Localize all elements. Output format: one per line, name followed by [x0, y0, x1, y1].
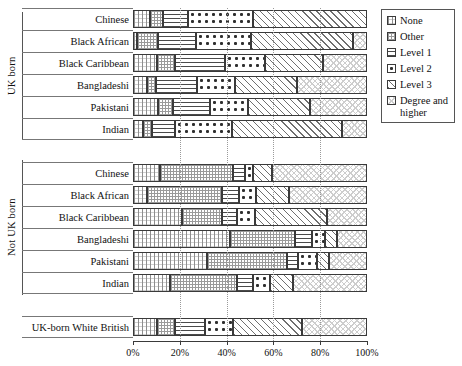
legend-swatch-icon [387, 64, 396, 73]
category-label: Pakistani [22, 97, 133, 117]
x-tick-label-60: 60% [264, 347, 282, 358]
category-label: Pakistani [22, 251, 133, 271]
gridline-40 [227, 8, 228, 341]
legend-item-other[interactable]: Other [387, 31, 449, 43]
category-separator [22, 293, 133, 294]
plot-area [133, 8, 367, 341]
category-label: Black African [22, 185, 133, 205]
legend-swatch-icon [387, 80, 396, 89]
x-tick-label-80: 80% [311, 347, 329, 358]
x-axis-line [133, 341, 367, 342]
legend: NoneOtherLevel 1Level 2Level 3Degree and… [381, 9, 455, 123]
x-tick-40 [227, 341, 228, 345]
legend-swatch-icon [387, 16, 396, 25]
legend-label: Level 2 [400, 63, 432, 75]
gridline-20 [180, 8, 181, 341]
x-tick-0 [133, 341, 134, 345]
gridline-60 [273, 8, 274, 341]
category-label: Indian [22, 273, 133, 293]
group-label-not-uk-born: Not UK born [6, 160, 20, 295]
category-separator [22, 139, 133, 140]
chart-canvas: UK born Not UK born ChineseBlack African… [0, 0, 462, 366]
category-label: Chinese [22, 163, 133, 183]
category-label: UK-born White British [22, 317, 133, 337]
category-label: Black Caribbean [22, 53, 133, 73]
x-tick-80 [320, 341, 321, 345]
group-label-uk-born: UK born [6, 12, 20, 140]
legend-swatch-icon [387, 32, 396, 41]
category-separator [22, 337, 133, 338]
legend-item-level-1[interactable]: Level 1 [387, 47, 449, 59]
x-tick-label-100: 100% [355, 347, 378, 358]
legend-label: Degree and higher [400, 95, 449, 118]
legend-label: Other [400, 31, 424, 43]
gridline-80 [320, 8, 321, 341]
category-label: Black African [22, 31, 133, 51]
legend-item-none[interactable]: None [387, 15, 449, 27]
legend-item-level-2[interactable]: Level 2 [387, 63, 449, 75]
legend-label: Level 3 [400, 79, 432, 91]
legend-item-level-3[interactable]: Level 3 [387, 79, 449, 91]
legend-label: None [400, 15, 423, 27]
legend-item-degree-and-higher[interactable]: Degree and higher [387, 95, 449, 118]
category-label: Black Caribbean [22, 207, 133, 227]
category-label: Chinese [22, 9, 133, 29]
x-tick-label-20: 20% [171, 347, 189, 358]
category-label: Bangladeshi [22, 75, 133, 95]
legend-swatch-icon [387, 96, 396, 105]
legend-swatch-icon [387, 48, 396, 57]
x-tick-100 [367, 341, 368, 345]
x-tick-20 [180, 341, 181, 345]
x-tick-label-0: 0% [126, 347, 139, 358]
x-tick-60 [273, 341, 274, 345]
x-tick-label-40: 40% [217, 347, 235, 358]
category-label: Indian [22, 119, 133, 139]
legend-label: Level 1 [400, 47, 432, 59]
category-label: Bangladeshi [22, 229, 133, 249]
